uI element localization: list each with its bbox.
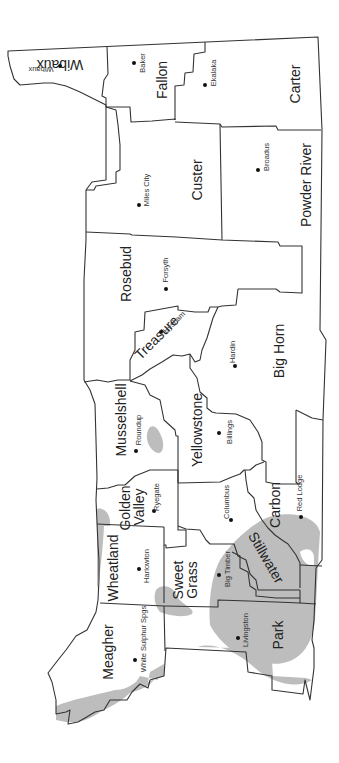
seat-dot-wibaux [58, 64, 62, 68]
boundary-bighorn-carbon [296, 410, 323, 420]
town-roundup: Roundup [134, 415, 143, 445]
label-custer: Custer [189, 159, 205, 201]
label-musselshell: Musselshell [113, 383, 129, 456]
town-harlowton: Harlowton [142, 549, 151, 583]
town-forsyth: Forsyth [161, 257, 170, 282]
seat-dot-ekalaka [203, 83, 207, 87]
town-miles-city: Miles City [142, 174, 151, 207]
town-baker: Baker [138, 53, 147, 73]
town-white-sulphur: White Sulphur Spgs [139, 606, 148, 673]
town-livingston: Livingston [241, 613, 250, 647]
boundary-carter-south [175, 122, 321, 130]
seat-dot-miles-city [137, 203, 141, 207]
town-wibaux: Wibaux [28, 65, 53, 74]
label-big-horn: Big Horn [271, 324, 287, 378]
town-hardin: Hardin [228, 341, 237, 363]
boundary-bighorn-carbon-2 [296, 410, 298, 484]
town-broadus: Broadus [262, 143, 271, 171]
boundary-musselshell-north [84, 380, 130, 382]
label-powder-river: Powder River [298, 143, 314, 227]
boundary-wheatland-meagher [100, 603, 164, 606]
label-grass: Grass [184, 561, 200, 598]
label-carter: Carter [287, 64, 303, 103]
seat-dot-livingston [236, 636, 240, 640]
label-rosebud: Rosebud [118, 246, 134, 302]
seat-dot-broadus [256, 168, 260, 172]
seat-dot-white-sulphur [133, 658, 137, 662]
shade-roundup [147, 426, 163, 453]
label-meagher: Meagher [100, 624, 116, 680]
town-columbus: Columbus [222, 485, 231, 519]
label-yellowstone: Yellowstone [189, 393, 205, 467]
seat-dot-big-timber [217, 573, 221, 577]
seat-dot-billings [217, 431, 221, 435]
seat-dot-baker [132, 61, 136, 65]
town-ekalaka: Ekalaka [209, 59, 218, 87]
seat-dot-roundup [134, 449, 138, 453]
boundary-golden-south [164, 470, 186, 548]
label-carbon: Carbon [267, 482, 283, 528]
seat-dot-red-lodge [299, 515, 303, 519]
county-map: Wibaux Fallon Carter Custer Powder River… [0, 0, 339, 763]
label-park: Park [270, 620, 286, 650]
town-billings: Billings [225, 420, 234, 444]
seat-dot-harlowton [137, 567, 141, 571]
label-wheatland: Wheatland [105, 535, 121, 602]
label-valley: Valley [131, 488, 147, 525]
boundary-custer-powder [220, 124, 222, 240]
boundary-musselshell-golden [97, 470, 178, 489]
boundary-custer-west [86, 107, 120, 190]
town-big-timber: Big Timber [223, 551, 232, 587]
town-red-lodge: Red Lodge [295, 475, 304, 512]
boundary-fallon-carter [175, 42, 205, 120]
seat-dot-forsyth [164, 287, 168, 291]
boundary-wibaux-fallon [102, 46, 108, 107]
label-fallon: Fallon [154, 61, 170, 99]
shade-stillwater-park [209, 514, 320, 664]
seat-dot-hardin [233, 364, 237, 368]
town-ryegate: Ryegate [152, 483, 161, 511]
